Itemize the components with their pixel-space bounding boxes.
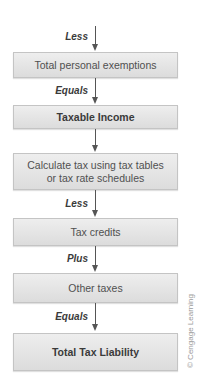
step-label: Taxable Income bbox=[56, 111, 134, 124]
arrow-6-line bbox=[95, 303, 96, 325]
step-tax-credits: Tax credits bbox=[13, 218, 178, 246]
arrow-3-head bbox=[92, 145, 98, 152]
arrow-4-head bbox=[92, 210, 98, 217]
step-label-line2: or tax rate schedules bbox=[47, 172, 144, 185]
step-total-personal-exemptions: Total personal exemptions bbox=[13, 52, 178, 78]
step-taxable-income: Taxable Income bbox=[13, 105, 178, 129]
arrow-5-line bbox=[95, 246, 96, 266]
arrow-2-head bbox=[92, 97, 98, 104]
operator-less-2: Less bbox=[28, 198, 88, 209]
step-label: Other taxes bbox=[68, 282, 122, 295]
step-label: Total personal exemptions bbox=[35, 59, 157, 72]
copyright-credit: © Cengage Learning bbox=[186, 294, 195, 368]
arrow-1-head bbox=[92, 44, 98, 51]
step-label: Total Tax Liability bbox=[52, 346, 139, 359]
arrow-5-head bbox=[92, 265, 98, 272]
step-label: Tax credits bbox=[70, 226, 120, 239]
arrow-3-line bbox=[95, 129, 96, 146]
operator-less-1: Less bbox=[28, 31, 88, 42]
step-label-line1: Calculate tax using tax tables bbox=[27, 159, 164, 172]
arrow-1-line bbox=[95, 26, 96, 45]
arrow-2-line bbox=[95, 78, 96, 98]
operator-equals-2: Equals bbox=[28, 311, 88, 322]
step-total-tax-liability: Total Tax Liability bbox=[13, 333, 178, 371]
arrow-6-head bbox=[92, 324, 98, 331]
step-calculate-tax: Calculate tax using tax tables or tax ra… bbox=[13, 153, 178, 190]
operator-plus: Plus bbox=[28, 253, 88, 264]
step-other-taxes: Other taxes bbox=[13, 273, 178, 303]
operator-equals-1: Equals bbox=[28, 85, 88, 96]
arrow-4-line bbox=[95, 190, 96, 211]
